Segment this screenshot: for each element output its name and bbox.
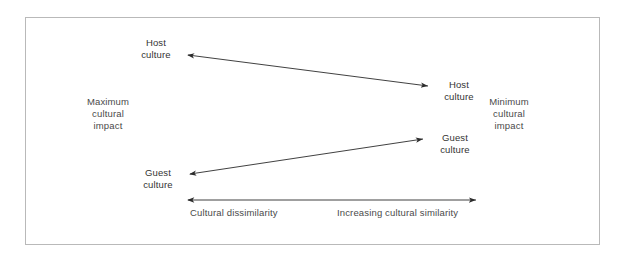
node-guest-culture-left: Guest culture — [130, 167, 186, 191]
label-maximum-cultural-impact: Maximum cultural impact — [76, 96, 140, 132]
axis-label-increasing-cultural-similarity: Increasing cultural similarity — [337, 207, 497, 219]
node-host-culture-left: Host culture — [128, 37, 184, 61]
node-guest-culture-right: Guest culture — [427, 132, 483, 156]
label-minimum-cultural-impact: Minimum cultural impact — [477, 96, 541, 132]
axis-label-cultural-dissimilarity: Cultural dissimilarity — [190, 207, 320, 219]
figure-container: Host culture Host culture Guest culture … — [0, 0, 621, 258]
